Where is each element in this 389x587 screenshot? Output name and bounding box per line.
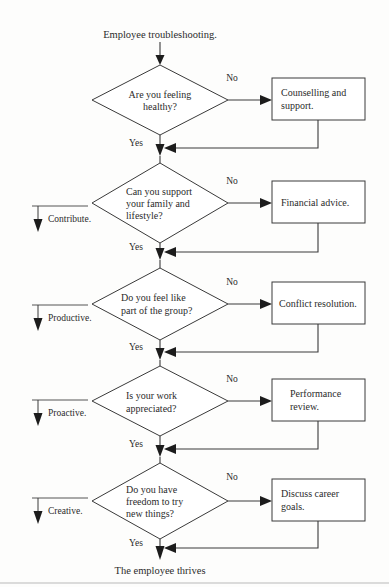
decision-label-5-line2: freedom to try	[126, 496, 183, 507]
no-arrow-icon-4	[260, 396, 272, 406]
phase-label-productive: Productive.	[48, 313, 92, 323]
decision-label-4-line2: appreciated?	[126, 403, 177, 414]
no-arrow-icon-5	[260, 496, 272, 506]
return-connector-3	[172, 324, 318, 352]
phase-label-creative: Creative.	[48, 506, 83, 516]
step-group-2: Can you support your family and lifestyl…	[32, 163, 365, 268]
flowchart-title: Employee troubleshooting.	[103, 29, 217, 40]
decision-label-2-line1: Can you support	[126, 186, 192, 197]
return-arrow-icon-5	[164, 543, 176, 553]
decision-diamond-1[interactable]	[92, 65, 228, 135]
yes-arrow-icon-2	[156, 248, 165, 260]
process-label-5-line1: Discuss career	[281, 488, 340, 499]
terminal-label: The employee thrives	[115, 565, 206, 576]
return-connector-4	[172, 421, 318, 449]
branch-yes-label-5: Yes	[129, 538, 143, 548]
no-arrow-icon-1	[260, 95, 272, 105]
phase-marker-contribute: Contribute.	[32, 206, 91, 232]
phase-marker-creative: Creative.	[32, 498, 88, 524]
phase-arrow-icon-3	[34, 413, 43, 426]
decision-label-3-line2: part of the group?	[121, 305, 193, 316]
process-box-4[interactable]	[272, 379, 365, 421]
process-label-2-line1: Financial advice.	[281, 197, 349, 208]
phase-arrow-icon-4	[34, 511, 43, 524]
branch-no-label-2: No	[226, 176, 238, 186]
branch-no-label-3: No	[226, 277, 238, 287]
decision-label-3-line1: Do you feel like	[121, 292, 186, 303]
phase-marker-proactive: Proactive.	[32, 400, 88, 426]
return-arrow-icon-3	[164, 347, 176, 357]
branch-yes-label-1: Yes	[129, 138, 143, 148]
branch-no-label-1: No	[226, 73, 238, 83]
return-connector-5	[172, 521, 318, 548]
return-arrow-icon-1	[164, 143, 176, 153]
decision-diamond-3[interactable]	[92, 268, 228, 340]
decision-label-1-line2: healthy?	[143, 101, 177, 112]
yes-arrow-icon-3	[156, 348, 165, 360]
process-box-5[interactable]	[272, 479, 365, 521]
phase-label-contribute: Contribute.	[48, 214, 91, 224]
step-group-4: Is your work appreciated? No Performance…	[32, 366, 365, 463]
no-arrow-icon-2	[260, 198, 272, 208]
flowchart-svg: Employee troubleshooting. Are you feelin…	[0, 0, 389, 587]
yes-arrow-icon-4	[156, 445, 165, 457]
process-label-3-line1: Conflict resolution.	[279, 298, 357, 309]
process-box-1[interactable]	[272, 78, 365, 120]
process-label-4-line1: Performance	[290, 388, 342, 399]
yes-arrow-icon-1	[156, 144, 165, 156]
flowchart-canvas: Employee troubleshooting. Are you feelin…	[0, 0, 389, 587]
decision-label-5-line1: Do you have	[126, 484, 178, 495]
phase-arrow-icon-2	[34, 318, 43, 331]
return-connector-2	[172, 223, 318, 252]
process-label-4-line2: review.	[290, 401, 319, 412]
branch-yes-label-4: Yes	[129, 439, 143, 449]
process-label-1-line1: Counselling and	[281, 87, 346, 98]
step-group-5: Do you have freedom to try new things? N…	[32, 463, 365, 560]
phase-arrow-icon-1	[34, 219, 43, 232]
process-label-1-line2: support.	[281, 100, 314, 111]
branch-no-label-4: No	[226, 374, 238, 384]
branch-yes-label-3: Yes	[129, 342, 143, 352]
entry-arrow-icon	[156, 55, 165, 65]
decision-label-1-line1: Are you feeling	[129, 89, 192, 100]
yes-arrow-icon-5	[156, 546, 165, 560]
return-arrow-icon-2	[164, 247, 176, 257]
decision-label-5-line3: new things?	[126, 508, 175, 519]
decision-label-2-line2: your family and	[126, 198, 190, 209]
no-arrow-icon-3	[260, 299, 272, 309]
step-group-1: Are you feeling healthy? No Counselling …	[92, 65, 365, 163]
process-label-5-line2: goals.	[281, 501, 305, 512]
decision-label-2-line3: lifestyle?	[126, 210, 163, 221]
branch-no-label-5: No	[226, 472, 238, 482]
return-arrow-icon-4	[164, 444, 176, 454]
step-group-3: Do you feel like part of the group? No C…	[32, 268, 365, 366]
decision-diamond-4[interactable]	[92, 366, 228, 436]
decision-label-4-line1: Is your work	[126, 390, 177, 401]
phase-label-proactive: Proactive.	[48, 408, 86, 418]
phase-marker-productive: Productive.	[32, 305, 92, 331]
branch-yes-label-2: Yes	[129, 242, 143, 252]
return-connector-1	[172, 120, 318, 148]
